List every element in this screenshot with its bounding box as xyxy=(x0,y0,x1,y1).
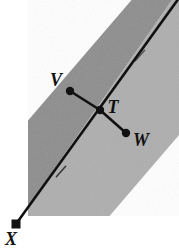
label-x: X xyxy=(4,229,18,249)
figure-canvas: V T W X xyxy=(0,0,179,249)
point-w-dot xyxy=(122,129,130,137)
point-x-dot xyxy=(12,220,21,229)
label-v: V xyxy=(50,70,64,90)
label-w: W xyxy=(133,130,151,150)
point-t-dot xyxy=(96,106,104,114)
geometry-figure: V T W X xyxy=(0,0,179,249)
point-v-dot xyxy=(66,87,74,95)
label-t: T xyxy=(108,97,120,117)
